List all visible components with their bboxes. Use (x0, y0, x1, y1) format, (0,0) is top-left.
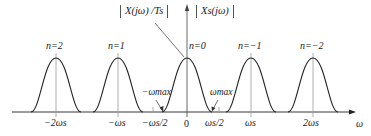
peak-label-n-2: n=−2 (300, 41, 324, 51)
neg-wmax-label: −ωmax (142, 88, 171, 98)
peak-label-n2: n=2 (46, 41, 63, 51)
tick-label-zero: 0 (184, 119, 189, 129)
tick-label-neg-ws-half: −ωs/2 (142, 118, 167, 128)
spectrum-replicas (31, 58, 338, 112)
peak-label-n1: n=1 (108, 41, 125, 51)
axis-label-omega: ω (356, 119, 363, 129)
pos-wmax-arrowhead-icon (212, 107, 216, 112)
tick-label-neg-2ws: −2ωs (44, 118, 67, 128)
axis-arrow-icon (349, 110, 356, 115)
spectrum-plot (0, 0, 371, 136)
sampling-spectrum-diagram: X(jω) /Ts Xs(jω) n=2 n=1 n=0 n=−1 n=−2 −… (0, 0, 371, 136)
tick-label-ws: ωs (245, 118, 256, 128)
sampled-spectrum-text: Xs(jω) (201, 5, 229, 16)
vertical-arrow-icon (185, 4, 189, 11)
pos-wmax-label: ωmax (210, 88, 233, 98)
title-leader-line (155, 23, 184, 57)
tick-label-neg-ws: −ωs (108, 118, 126, 128)
tick-lines (56, 53, 313, 117)
tick-label-2ws: 2ωs (303, 118, 319, 128)
sampled-spectrum-label: Xs(jω) (196, 5, 234, 18)
tick-label-ws-half: ωs/2 (205, 118, 224, 128)
continuous-spectrum-text: X(jω) /Ts (125, 5, 163, 16)
peak-label-n-1: n=−1 (238, 41, 262, 51)
peak-label-n0: n=0 (189, 41, 206, 51)
continuous-spectrum-label: X(jω) /Ts (120, 5, 168, 18)
